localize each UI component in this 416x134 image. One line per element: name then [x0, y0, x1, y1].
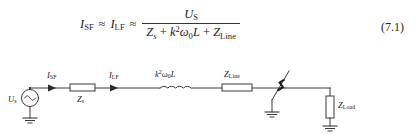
current-sf-subscript: SF	[50, 74, 57, 80]
current-sf-label: ISF	[47, 70, 57, 80]
equation-block: ISF ≈ ILF ≈ US Zs + k2ω0L + ZLine (7.1)	[0, 0, 416, 58]
source-voltage-subscript: S	[193, 12, 198, 22]
fraction-numerator: US	[178, 8, 204, 23]
equation-fraction: US Zs + k2ω0L + ZLine	[142, 8, 240, 41]
equation-number: (7.1)	[381, 20, 404, 35]
inductor-L: L	[171, 69, 176, 79]
approx-sign-2: ≈	[130, 17, 137, 32]
equation-expression: ISF ≈ ILF ≈ US Zs + k2ω0L + ZLine	[80, 8, 241, 41]
current-arrow-sf	[48, 84, 56, 91]
current-arrow-lf	[110, 84, 118, 91]
ac-source-sine	[25, 96, 36, 101]
zload-subscript: Load	[343, 104, 356, 110]
impedance-zline-box	[222, 84, 252, 91]
inductor-coil	[160, 86, 191, 88]
den-plus-sign-2: +	[203, 26, 210, 40]
current-sf-symbol: ISF	[80, 17, 94, 32]
current-lf-symbol: ILF	[110, 17, 124, 32]
figure-page: ISF ≈ ILF ≈ US Zs + k2ω0L + ZLine (7.1)	[0, 0, 416, 134]
current-lf-subscript: LF	[112, 74, 119, 80]
impedance-zs-box	[70, 84, 95, 91]
den-plus-sign-1: +	[160, 26, 167, 40]
current-sf-subscript: SF	[84, 22, 94, 32]
source-voltage-label: Us	[8, 94, 17, 104]
circuit-diagram: Us ISF Zs ILF k2ω0L ZLine ZLoad	[0, 56, 416, 134]
den-z-line-subscript: Line	[220, 31, 236, 41]
impedance-zload-box	[326, 96, 334, 118]
den-inductance: L	[193, 26, 200, 40]
fraction-denominator: Zs + k2ω0L + ZLine	[142, 24, 240, 41]
zline-subscript: Line	[229, 73, 240, 79]
source-voltage-base: U	[184, 7, 193, 21]
impedance-zline-label: ZLine	[224, 69, 240, 79]
current-lf-subscript: LF	[115, 22, 125, 32]
den-omega-base: ω	[180, 26, 189, 40]
circuit-schematic-svg	[0, 56, 416, 134]
zs-subscript: s	[82, 98, 84, 104]
current-lf-label: ILF	[109, 70, 119, 80]
fault-arc-zigzag	[278, 80, 285, 91]
approx-sign-1: ≈	[99, 17, 106, 32]
source-voltage-subscript: s	[14, 98, 16, 104]
inductor-label: k2ω0L	[155, 69, 176, 79]
impedance-zs-label: Zs	[77, 94, 84, 104]
impedance-zload-label: ZLoad	[338, 100, 355, 110]
